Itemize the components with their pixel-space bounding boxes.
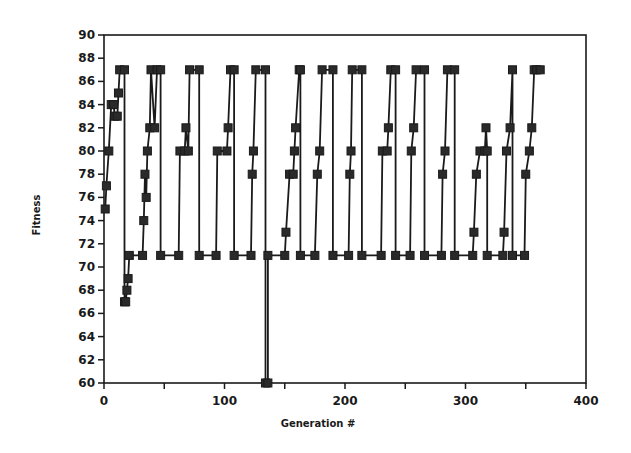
square-marker	[345, 251, 353, 259]
square-marker	[358, 66, 366, 74]
square-marker	[472, 170, 480, 178]
square-marker	[264, 379, 272, 387]
y-tick-label: 80	[78, 144, 95, 158]
square-marker	[392, 66, 400, 74]
square-marker	[329, 66, 337, 74]
square-marker	[358, 251, 366, 259]
square-marker	[296, 251, 304, 259]
y-tick-label: 60	[78, 376, 95, 390]
plot-border	[104, 35, 586, 383]
x-axis-title: Generation #	[281, 418, 356, 429]
square-marker	[213, 147, 221, 155]
square-marker	[506, 124, 514, 132]
square-marker	[347, 147, 355, 155]
data-series	[101, 66, 544, 387]
square-marker	[508, 251, 516, 259]
square-marker	[377, 251, 385, 259]
fitness-chart: 60626466687072747678808284868890 0100200…	[0, 0, 631, 453]
square-marker	[470, 228, 478, 236]
square-marker	[230, 251, 238, 259]
square-marker	[296, 66, 304, 74]
square-marker	[499, 251, 507, 259]
square-marker	[122, 298, 130, 306]
square-marker	[348, 66, 356, 74]
square-marker	[536, 66, 544, 74]
square-marker	[175, 251, 183, 259]
square-marker	[249, 147, 257, 155]
square-marker	[105, 147, 113, 155]
square-marker	[123, 286, 131, 294]
square-marker	[406, 251, 414, 259]
square-marker	[143, 147, 151, 155]
square-marker	[313, 170, 321, 178]
square-marker	[318, 66, 326, 74]
square-marker	[290, 147, 298, 155]
square-marker	[421, 251, 429, 259]
y-tick-label: 78	[78, 167, 95, 181]
square-marker	[384, 124, 392, 132]
square-marker	[522, 170, 530, 178]
square-marker	[451, 66, 459, 74]
square-marker	[525, 147, 533, 155]
x-tick-label: 0	[100, 394, 108, 408]
square-marker	[124, 275, 132, 283]
square-marker	[101, 205, 109, 213]
y-tick-label: 76	[78, 190, 95, 204]
square-marker	[151, 124, 159, 132]
square-marker	[230, 66, 238, 74]
square-marker	[289, 170, 297, 178]
square-marker	[186, 66, 194, 74]
square-marker	[410, 124, 418, 132]
square-marker	[264, 251, 272, 259]
fitness-line	[105, 70, 540, 383]
y-axis: 60626466687072747678808284868890	[78, 28, 104, 390]
y-tick-label: 62	[78, 353, 95, 367]
square-marker	[182, 124, 190, 132]
y-tick-label: 64	[78, 330, 95, 344]
square-marker	[184, 147, 192, 155]
square-marker	[212, 251, 220, 259]
square-marker	[140, 217, 148, 225]
square-marker	[437, 251, 445, 259]
square-marker	[392, 251, 400, 259]
y-tick-label: 74	[78, 214, 95, 228]
square-marker	[195, 251, 203, 259]
square-marker	[439, 170, 447, 178]
square-marker	[223, 147, 231, 155]
square-marker	[248, 170, 256, 178]
square-marker	[502, 147, 510, 155]
square-marker	[521, 251, 529, 259]
x-tick-label: 200	[332, 394, 357, 408]
square-marker	[141, 170, 149, 178]
square-marker	[282, 228, 290, 236]
square-marker	[142, 193, 150, 201]
square-marker	[451, 251, 459, 259]
square-marker	[281, 251, 289, 259]
square-marker	[500, 228, 508, 236]
y-tick-label: 68	[78, 283, 95, 297]
square-marker	[483, 251, 491, 259]
square-marker	[110, 101, 118, 109]
y-tick-label: 90	[78, 28, 95, 42]
y-tick-label: 70	[78, 260, 95, 274]
square-marker	[508, 66, 516, 74]
square-marker	[261, 66, 269, 74]
square-marker	[421, 66, 429, 74]
square-marker	[292, 124, 300, 132]
square-marker	[113, 112, 121, 120]
square-marker	[157, 66, 165, 74]
square-marker	[346, 170, 354, 178]
square-marker	[195, 66, 203, 74]
y-tick-label: 82	[78, 121, 95, 135]
square-marker	[139, 251, 147, 259]
square-marker	[224, 124, 232, 132]
square-marker	[482, 124, 490, 132]
y-tick-label: 84	[78, 98, 95, 112]
square-marker	[407, 147, 415, 155]
square-marker	[329, 251, 337, 259]
square-marker	[102, 182, 110, 190]
y-tick-label: 72	[78, 237, 95, 251]
y-tick-label: 66	[78, 306, 95, 320]
square-marker	[412, 66, 420, 74]
square-marker	[120, 66, 128, 74]
